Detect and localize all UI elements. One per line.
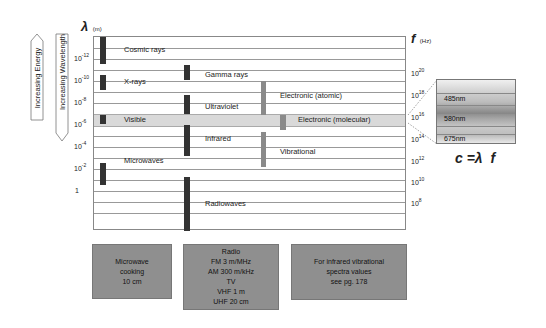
ultraviolet-bar: [184, 95, 190, 114]
f-symbol: f: [411, 31, 415, 46]
lambda-tick-1e-2: 10-2: [74, 162, 86, 172]
gamma-rays-bar: [184, 65, 190, 80]
cosmic-rays-bar: [100, 37, 106, 64]
microwave-note: Microwave cooking 10 cm: [92, 244, 172, 299]
cosmic-rays-label: Cosmic rays: [124, 45, 165, 54]
wavelength-unit: (m): [93, 26, 102, 32]
spectrum-grid: Cosmic rays X-rays Visible Microwaves Ga…: [93, 36, 406, 230]
electronic-atomic-label: Electronic (atomic): [280, 91, 342, 100]
electronic-atomic-bar: [261, 81, 266, 115]
electronic-molecular-bar: [280, 115, 286, 130]
lambda-tick-1: 1: [75, 184, 79, 194]
band-485nm: 485nm: [444, 95, 465, 102]
microwaves-label: Microwaves: [124, 156, 164, 165]
lambda-tick-1e-12: 10-12: [74, 52, 89, 62]
visible-bar: [100, 115, 106, 124]
visible-zoom-connector: [406, 79, 438, 145]
infrared-label: Infrared: [205, 134, 231, 143]
vibrational-bar: [261, 132, 266, 167]
infrared-bar: [184, 125, 190, 156]
lambda-tick-1e-6: 10-6: [74, 118, 86, 128]
freq-tick-1e12: 1012: [411, 155, 424, 165]
wavelength-axis-title: λ (m): [81, 17, 102, 35]
lambda-tick-1e-8: 10-8: [74, 96, 86, 106]
xrays-label: X-rays: [124, 77, 146, 86]
visible-spectrum-detail: 485nm 580nm 675nm: [436, 79, 516, 144]
xrays-bar: [100, 75, 106, 90]
increasing-energy-label: Increasing Energy: [33, 48, 42, 108]
microwaves-bar: [100, 163, 106, 185]
radiowaves-label: Radiowaves: [205, 199, 246, 208]
vibrational-label: Vibrational: [280, 147, 315, 156]
freq-tick-1e20: 1020: [411, 67, 424, 77]
frequency-axis-title: f (Hz): [411, 29, 431, 47]
band-580nm: 580nm: [444, 115, 465, 122]
wave-equation: c =λ f: [455, 150, 495, 166]
band-675nm: 675nm: [444, 135, 465, 142]
freq-tick-1e8: 108: [411, 197, 422, 207]
frequency-unit: (Hz): [420, 38, 431, 44]
lambda-tick-1e-10: 10-10: [74, 74, 89, 84]
freq-tick-1e10: 1010: [411, 176, 424, 186]
lambda-tick-1e-4: 10-4: [74, 140, 86, 150]
ultraviolet-label: Ultraviolet: [205, 102, 238, 111]
radio-note: Radio FM 3 m/MHz AM 300 m/kHz TV VHF 1 m…: [183, 244, 279, 310]
electronic-molecular-label: Electronic (molecular): [298, 115, 371, 124]
infrared-note: For infrared vibrational spectra values …: [291, 244, 407, 300]
increasing-wavelength-label: Increasing Wavelength: [58, 34, 67, 110]
gamma-rays-label: Gamma rays: [205, 70, 248, 79]
lambda-symbol: λ: [81, 19, 88, 34]
visible-label: Visible: [124, 115, 146, 124]
radiowaves-bar: [184, 177, 190, 231]
